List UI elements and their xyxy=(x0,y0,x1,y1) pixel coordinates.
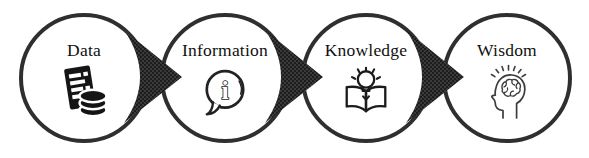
info-letter: i xyxy=(221,76,228,105)
stage-circle-information: Information i xyxy=(160,13,290,143)
stage-circle-knowledge: Knowledge xyxy=(301,13,431,143)
stage-label: Data xyxy=(67,41,101,60)
dikw-flow-diagram: Data Information i Knowledge xyxy=(0,0,589,158)
stage-circle-data: Data xyxy=(19,13,149,143)
stage-label: Information xyxy=(182,41,268,60)
info-speech-bubble-icon: i xyxy=(200,67,250,117)
open-book-lightbulb-icon xyxy=(339,66,393,118)
stage-circle-wisdom: Wisdom xyxy=(442,13,572,143)
document-database-icon xyxy=(57,64,111,120)
head-brain-rays-icon xyxy=(481,62,533,120)
stage-label: Knowledge xyxy=(325,41,407,60)
stage-label: Wisdom xyxy=(477,41,537,60)
